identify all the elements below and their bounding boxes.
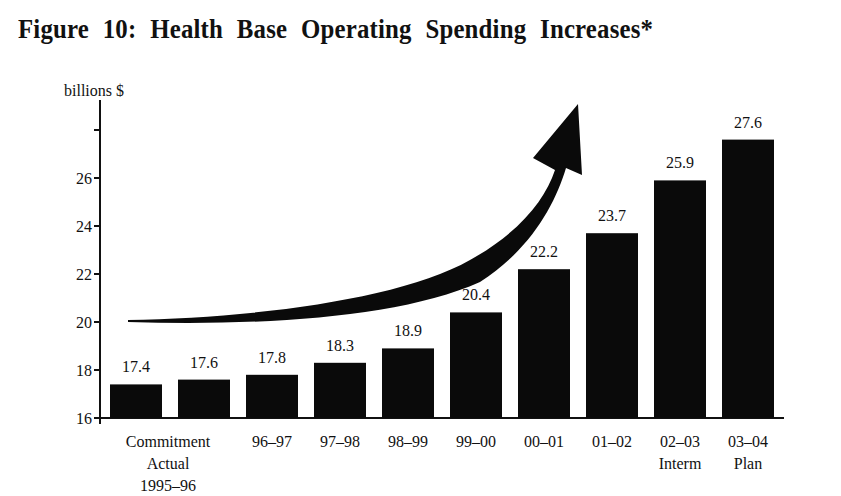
y-tick-label: 18 [76, 362, 92, 379]
value-label: 20.4 [462, 286, 490, 303]
x-category-label: Plan [734, 455, 762, 472]
value-label: 17.8 [258, 349, 286, 366]
x-category-label: 00–01 [524, 433, 564, 450]
bar [382, 348, 434, 418]
bar-chart: 161820222426 17.417.617.818.318.920.422.… [0, 0, 841, 496]
bar [314, 363, 366, 418]
bar [518, 269, 570, 418]
trend-arrow-icon [128, 104, 582, 323]
value-label: 27.6 [734, 114, 762, 131]
x-category-label: Commitment [126, 433, 211, 450]
bars: 17.417.617.818.318.920.422.223.725.927.6… [110, 114, 774, 494]
bar [722, 140, 774, 418]
bar [178, 380, 230, 418]
value-label: 18.3 [326, 337, 354, 354]
value-label: 25.9 [666, 154, 694, 171]
x-category-label: 98–99 [388, 433, 428, 450]
bar [654, 180, 706, 418]
x-category-label: Interm [659, 455, 702, 472]
x-category-label: 99–00 [456, 433, 496, 450]
y-tick-label: 16 [76, 410, 92, 427]
y-tick-label: 24 [76, 218, 92, 235]
value-label: 22.2 [530, 243, 558, 260]
x-category-label: 01–02 [592, 433, 632, 450]
value-label: 23.7 [598, 207, 626, 224]
x-category-label: 96–97 [252, 433, 292, 450]
bar [586, 233, 638, 418]
y-tick-label: 22 [76, 266, 92, 283]
bar [246, 375, 298, 418]
value-label: 17.6 [190, 354, 218, 371]
y-tick-label: 20 [76, 314, 92, 331]
value-label: 18.9 [394, 322, 422, 339]
x-category-label: 03–04 [728, 433, 768, 450]
x-category-label: Actual [147, 455, 190, 472]
value-label: 17.4 [122, 358, 150, 375]
bar [110, 384, 162, 418]
x-category-label: 02–03 [660, 433, 700, 450]
x-category-label: 1995–96 [140, 477, 196, 494]
y-tick-label: 26 [76, 170, 92, 187]
x-category-label: 97–98 [320, 433, 360, 450]
bar [450, 312, 502, 418]
